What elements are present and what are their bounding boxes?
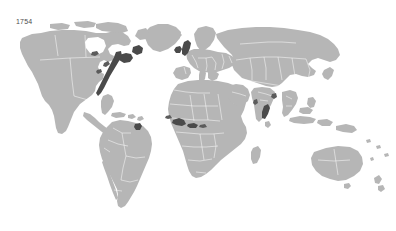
world-map-graphic [0,0,396,231]
year-label: 1754 [16,17,32,26]
world-map-container: 1754 [0,0,396,231]
